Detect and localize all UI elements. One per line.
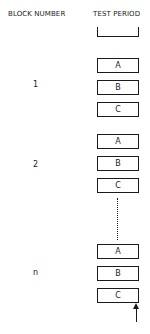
period-box: B (97, 156, 139, 171)
continuation-dots (117, 198, 119, 240)
period-box: B (97, 80, 139, 95)
block-number-header: BLOCK NUMBER (8, 10, 65, 18)
test-period-header: TEST PERIOD (93, 10, 140, 18)
period-box: B (97, 266, 139, 281)
period-box: C (97, 288, 139, 303)
test-period-bracket (97, 27, 139, 37)
block-label: 1 (33, 80, 38, 89)
period-box: A (97, 58, 139, 73)
block-label: n (33, 268, 38, 277)
up-arrow-icon (136, 308, 137, 322)
block-label: 2 (33, 160, 38, 169)
period-box: A (97, 244, 139, 259)
period-box: C (97, 178, 139, 193)
period-box: C (97, 102, 139, 117)
period-box: A (97, 134, 139, 149)
